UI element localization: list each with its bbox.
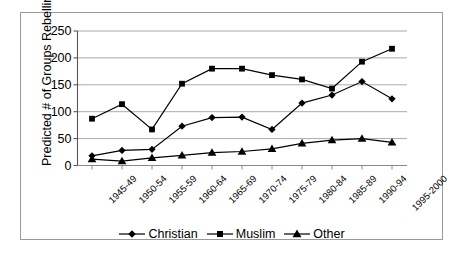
legend-label: Other: [313, 228, 344, 241]
data-point: [89, 116, 95, 122]
data-point: [269, 72, 275, 78]
data-point: [359, 59, 365, 65]
triangle-marker-icon: [284, 228, 310, 240]
data-point: [119, 101, 125, 107]
data-point: [358, 134, 367, 141]
chart-legend: ChristianMuslimOther: [0, 228, 464, 241]
y-axis-tick-label: 150: [38, 79, 72, 92]
legend-label: Christian: [148, 228, 197, 241]
square-marker-icon: [207, 228, 233, 240]
y-axis-tick-label: 200: [38, 52, 72, 65]
y-axis-tick-label: 50: [38, 133, 72, 146]
y-axis-tick-label: 0: [38, 160, 72, 173]
data-point: [179, 81, 185, 87]
data-point: [329, 86, 335, 92]
chart-container: Predicted # of Groups Rebelling Christia…: [0, 0, 464, 262]
y-axis-tick-label: 250: [38, 25, 72, 38]
data-point: [118, 147, 125, 154]
data-point: [328, 91, 335, 98]
legend-item-christian: Christian: [119, 228, 197, 241]
legend-label: Muslim: [236, 228, 276, 241]
diamond-marker-icon: [119, 228, 145, 240]
data-point: [358, 78, 365, 85]
plot-area: [0, 0, 464, 262]
legend-item-other: Other: [284, 228, 344, 241]
data-point: [149, 127, 155, 133]
data-point: [208, 114, 215, 121]
data-point: [238, 113, 245, 120]
data-point: [209, 66, 215, 72]
data-point: [389, 46, 395, 52]
data-point: [388, 95, 395, 102]
legend-item-muslim: Muslim: [207, 228, 276, 241]
data-point: [299, 77, 305, 83]
data-point: [239, 66, 245, 72]
y-axis-tick-label: 100: [38, 106, 72, 119]
